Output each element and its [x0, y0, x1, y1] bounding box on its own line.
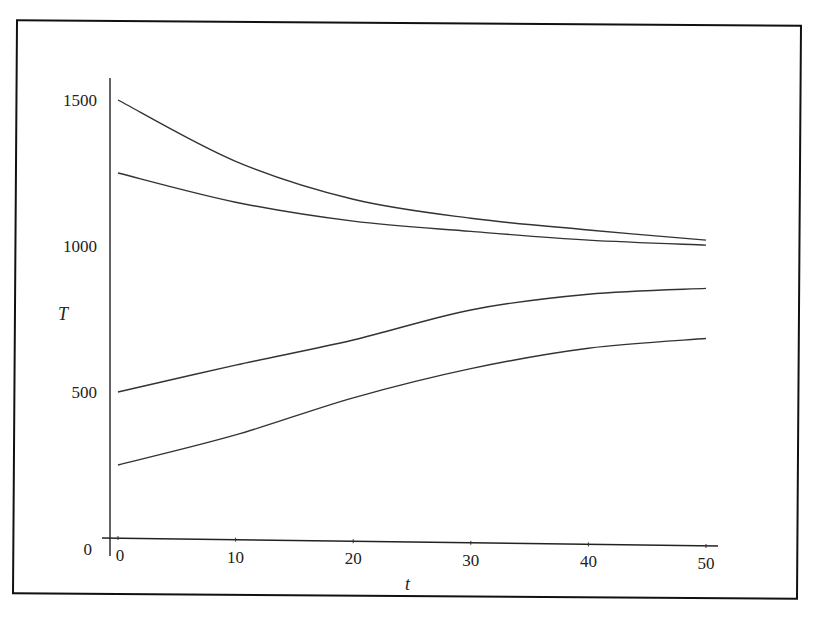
line-chart: 050010001500 01020304050 T t [0, 0, 814, 641]
x-tick-label: 50 [698, 554, 715, 573]
x-tick-label: 40 [580, 552, 597, 571]
x-axis [102, 538, 718, 546]
series-line-3 [118, 288, 706, 392]
x-tick-label: 0 [116, 546, 125, 565]
x-tick-label: 10 [227, 548, 244, 567]
series-line-4 [118, 339, 706, 465]
y-tick-label: 1000 [63, 237, 97, 256]
x-axis-title: t [405, 574, 411, 594]
x-tick-label: 20 [345, 549, 362, 568]
y-tick-label: 500 [72, 383, 98, 402]
y-tick-label: 1500 [63, 91, 97, 110]
y-axis-title: T [58, 304, 70, 324]
series-line-2 [118, 173, 706, 245]
x-tick-label: 30 [462, 551, 479, 570]
y-tick-label: 0 [84, 540, 93, 559]
series-line-1 [118, 100, 706, 240]
